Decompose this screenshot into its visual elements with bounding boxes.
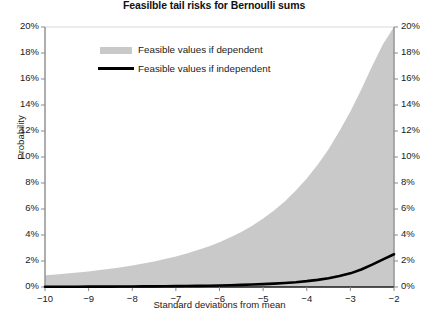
legend-label-dependent: Feasible values if dependent — [136, 44, 263, 55]
x-tick-7: −3 — [330, 293, 370, 304]
chart-legend: Feasible values if dependent Feasible va… — [96, 40, 326, 78]
x-tick-6: −4 — [287, 293, 327, 304]
y-tick-right-0: 0% — [401, 280, 428, 291]
y-tick-right-7: 14% — [401, 98, 428, 109]
x-tick-1: −9 — [69, 293, 109, 304]
y-tick-left-0: 0% — [0, 280, 39, 291]
y-tick-left-7: 14% — [0, 98, 39, 109]
y-tick-left-4: 8% — [0, 176, 39, 187]
y-tick-left-10: 20% — [0, 20, 39, 31]
legend-fill-swatch-icon — [96, 43, 136, 57]
y-tick-right-2: 4% — [401, 228, 428, 239]
y-tick-right-1: 2% — [401, 254, 428, 265]
y-tick-right-6: 12% — [401, 124, 428, 135]
y-tick-left-1: 2% — [0, 254, 39, 265]
chart-container: Feasilble tail risks for Bernoulli sums … — [0, 0, 428, 313]
x-tick-8: −2 — [374, 293, 414, 304]
x-tick-5: −5 — [243, 293, 283, 304]
y-tick-left-3: 6% — [0, 202, 39, 213]
y-tick-right-3: 6% — [401, 202, 428, 213]
y-tick-right-8: 16% — [401, 72, 428, 83]
y-tick-left-9: 18% — [0, 46, 39, 57]
x-tick-3: −7 — [156, 293, 196, 304]
x-tick-0: −10 — [25, 293, 65, 304]
y-tick-left-6: 12% — [0, 124, 39, 135]
y-tick-left-2: 4% — [0, 228, 39, 239]
y-tick-right-10: 20% — [401, 20, 428, 31]
x-tick-4: −6 — [200, 293, 240, 304]
y-tick-right-4: 8% — [401, 176, 428, 187]
legend-item-dependent: Feasible values if dependent — [96, 40, 326, 59]
legend-line-swatch-icon — [96, 62, 136, 76]
legend-item-independent: Feasible values if independent — [96, 59, 326, 78]
y-tick-left-5: 10% — [0, 150, 39, 161]
y-tick-right-5: 10% — [401, 150, 428, 161]
y-tick-right-9: 18% — [401, 46, 428, 57]
y-axis-label: Probability — [15, 98, 26, 178]
x-tick-2: −8 — [112, 293, 152, 304]
legend-label-independent: Feasible values if independent — [136, 63, 270, 74]
y-tick-left-8: 16% — [0, 72, 39, 83]
